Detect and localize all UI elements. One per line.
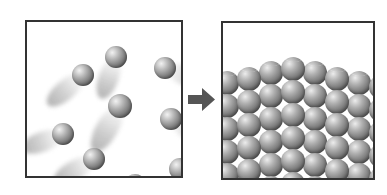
lattice-particle [303,130,327,154]
transition-arrow [188,86,215,113]
lattice-particle [221,94,239,118]
lattice-surface-highlight [308,49,325,60]
lattice-particle [303,153,327,177]
solid-state-panel [221,21,375,180]
gas-particle [52,123,74,145]
lattice-particle [259,130,283,154]
lattice-surface-highlight [330,55,347,66]
gas-particle [72,64,94,86]
lattice-particle [347,140,371,164]
gas-particle [83,148,105,170]
gas-particle [169,158,183,178]
lattice-particle [237,90,261,114]
lattice-surface-highlight [286,45,303,56]
lattice-particle [347,163,371,180]
crystal-lattice-field [223,23,373,178]
arrow-shape [188,88,215,111]
lattice-particle [325,159,349,180]
gas-state-panel [25,20,183,178]
lattice-particle [347,117,371,141]
lattice-particle [325,113,349,137]
lattice-particle [259,153,283,177]
lattice-surface-highlight [242,55,259,66]
gas-particle [154,57,176,79]
lattice-surface-highlight [264,49,281,60]
lattice-particle [281,126,305,150]
lattice-particle [221,140,239,164]
lattice-particle [325,90,349,114]
lattice-particle [237,136,261,160]
lattice-particle [259,107,283,131]
lattice-surface-highlight [352,59,369,70]
gas-particle-field [27,22,181,176]
lattice-particle [281,80,305,104]
lattice-particle [281,103,305,127]
lattice-particle [347,94,371,118]
gas-particle [105,46,127,68]
lattice-particle [369,167,375,180]
gas-particle [124,174,146,178]
lattice-surface-highlight [374,63,376,74]
lattice-particle [237,113,261,137]
lattice-particle [281,172,305,180]
lattice-particle [281,149,305,173]
lattice-particle [237,159,261,180]
lattice-particle [259,84,283,108]
gas-particle [108,94,132,118]
lattice-particle [303,176,327,180]
diagram-canvas [0,0,387,195]
lattice-particle [259,176,283,180]
lattice-particle [303,107,327,131]
lattice-surface-highlight [373,66,375,77]
lattice-particle [303,84,327,108]
lattice-particle [221,117,239,141]
gas-particle [160,108,182,130]
lattice-surface-highlight [221,59,237,70]
lattice-particle [325,136,349,160]
